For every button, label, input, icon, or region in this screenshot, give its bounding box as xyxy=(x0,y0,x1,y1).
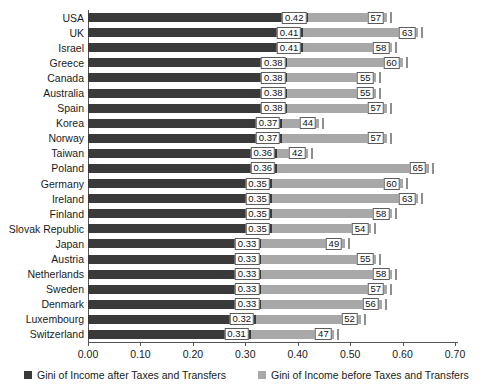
bar-gini-after xyxy=(88,43,303,52)
category-label: Sweden xyxy=(46,284,84,295)
value-label-after: 0.35 xyxy=(245,193,270,205)
bar-end-marker xyxy=(379,88,381,99)
value-label-before: 57 xyxy=(368,12,385,24)
legend-label: Gini of Income before Taxes and Transfer… xyxy=(271,369,469,381)
value-label-before: 65 xyxy=(409,162,426,174)
category-label: Ireland xyxy=(52,193,84,204)
bar-end-marker xyxy=(379,254,381,265)
category-label: UK xyxy=(69,27,84,38)
chart-row: Norway0.3757 xyxy=(88,133,455,144)
bar-end-marker xyxy=(348,238,350,249)
value-label-after: 0.35 xyxy=(245,208,270,220)
chart-row: Slovak Republic0.3554 xyxy=(88,223,455,234)
value-label-before: 58 xyxy=(373,268,390,280)
category-label: Germany xyxy=(41,178,84,189)
bar-gini-after xyxy=(88,179,272,188)
value-label-before: 63 xyxy=(399,27,416,39)
bar-end-marker xyxy=(337,329,339,340)
bar-end-marker xyxy=(406,57,408,68)
chart-row: Spain0.3857 xyxy=(88,103,455,114)
value-label-after: 0.33 xyxy=(235,298,260,310)
value-label-after: 0.36 xyxy=(250,162,275,174)
value-label-before: 57 xyxy=(368,283,385,295)
legend-swatch-icon xyxy=(258,371,266,379)
chart-row: Israel0.4158 xyxy=(88,42,455,53)
value-label-before: 63 xyxy=(399,193,416,205)
value-label-before: 55 xyxy=(357,87,374,99)
x-axis-tick xyxy=(88,342,89,346)
value-label-before: 56 xyxy=(362,298,379,310)
value-label-after: 0.37 xyxy=(256,117,281,129)
category-label: USA xyxy=(62,12,84,23)
category-label: Denmark xyxy=(41,299,84,310)
x-axis-tick-label: 0.70 xyxy=(445,348,465,360)
chart-row: Sweden0.3357 xyxy=(88,284,455,295)
value-label-after: 0.35 xyxy=(245,178,270,190)
x-axis-tick xyxy=(193,342,194,346)
bar-gini-after xyxy=(88,13,308,22)
value-label-after: 0.38 xyxy=(261,72,286,84)
bar-gini-after xyxy=(88,119,282,128)
legend-item[interactable]: Gini of Income after Taxes and Transfers xyxy=(24,369,226,381)
bar-gini-after xyxy=(88,89,287,98)
value-label-after: 0.41 xyxy=(277,27,302,39)
category-label: Greece xyxy=(50,57,84,68)
chart-row: Luxembourg0.3252 xyxy=(88,314,455,325)
category-label: Australia xyxy=(43,88,84,99)
category-label: Korea xyxy=(56,118,84,129)
chart-row: Canada0.3855 xyxy=(88,72,455,83)
plot-area: USA0.4257UK0.4163Israel0.4158Greece0.386… xyxy=(88,10,455,342)
legend-item[interactable]: Gini of Income before Taxes and Transfer… xyxy=(258,369,469,381)
chart-row: Australia0.3855 xyxy=(88,88,455,99)
chart-row: Germany0.3560 xyxy=(88,178,455,189)
gini-bar-chart: USA0.4257UK0.4163Israel0.4158Greece0.386… xyxy=(0,0,494,388)
legend-label: Gini of Income after Taxes and Transfers xyxy=(37,369,226,381)
bar-end-marker xyxy=(390,133,392,144)
value-label-before: 60 xyxy=(383,57,400,69)
x-axis-tick xyxy=(403,342,404,346)
bar-end-marker xyxy=(390,12,392,23)
category-label: Netherlands xyxy=(27,269,84,280)
value-label-after: 0.33 xyxy=(235,283,260,295)
chart-row: Austria0.3355 xyxy=(88,254,455,265)
value-label-after: 0.33 xyxy=(235,238,260,250)
value-label-after: 0.38 xyxy=(261,102,286,114)
bar-end-marker xyxy=(364,314,366,325)
bar-gini-after xyxy=(88,104,287,113)
value-label-after: 0.31 xyxy=(224,328,249,340)
chart-row: Switzerland0.3147 xyxy=(88,329,455,340)
value-label-before: 55 xyxy=(357,253,374,265)
category-label: Poland xyxy=(51,163,84,174)
chart-row: Greece0.3860 xyxy=(88,57,455,68)
bar-gini-after xyxy=(88,164,277,173)
bar-gini-after xyxy=(88,209,272,218)
chart-row: Korea0.3744 xyxy=(88,118,455,129)
bar-end-marker xyxy=(322,118,324,129)
bar-gini-after xyxy=(88,58,287,67)
value-label-before: 55 xyxy=(357,72,374,84)
bar-gini-after xyxy=(88,194,272,203)
x-axis-tick-label: 0.10 xyxy=(130,348,150,360)
category-label: Taiwan xyxy=(51,148,84,159)
bar-end-marker xyxy=(379,72,381,83)
bar-gini-after xyxy=(88,149,277,158)
category-label: Israel xyxy=(58,42,84,53)
value-label-before: 54 xyxy=(352,223,369,235)
x-axis-tick-label: 0.00 xyxy=(78,348,98,360)
value-label-before: 57 xyxy=(368,132,385,144)
chart-row: Denmark0.3356 xyxy=(88,299,455,310)
bar-gini-after xyxy=(88,28,303,37)
category-label: Finland xyxy=(50,208,84,219)
chart-row: Ireland0.3563 xyxy=(88,193,455,204)
x-axis-tick xyxy=(298,342,299,346)
bar-end-marker xyxy=(421,27,423,38)
bar-end-marker xyxy=(406,178,408,189)
value-label-after: 0.33 xyxy=(235,268,260,280)
chart-row: Poland0.3665 xyxy=(88,163,455,174)
legend-swatch-icon xyxy=(24,371,32,379)
value-label-before: 49 xyxy=(326,238,343,250)
category-label: Luxembourg xyxy=(26,314,84,325)
value-label-before: 58 xyxy=(373,42,390,54)
category-label: Spain xyxy=(57,103,84,114)
bar-end-marker xyxy=(395,208,397,219)
